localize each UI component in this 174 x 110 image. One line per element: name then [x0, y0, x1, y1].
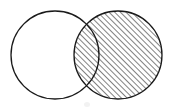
paper-smudge-artifact	[84, 102, 90, 107]
venn-diagram-canvas	[0, 0, 174, 110]
venn-diagram-figure	[0, 0, 174, 110]
